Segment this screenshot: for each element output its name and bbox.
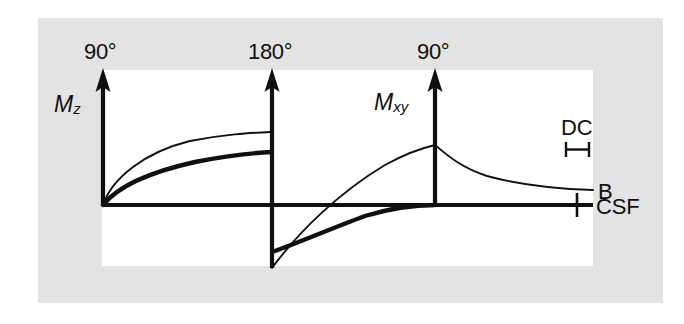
figure-container: 90° 180° 90° Mz Mxy DC B CSF — [0, 0, 684, 324]
curve-b-mz-recovery — [103, 152, 272, 205]
dc-contrast-bracket — [566, 142, 589, 157]
rf-pulse-arrow-90-first — [96, 68, 111, 205]
curve-csf-mxy-decay — [435, 145, 593, 190]
mxy-axis-label: Mxy — [374, 91, 408, 114]
mxy-axis-label-main: M — [374, 89, 393, 115]
rf-pulse-arrow-90-second — [428, 68, 443, 205]
mz-axis-label-main: M — [54, 91, 73, 117]
curve-label-csf: CSF — [596, 196, 639, 218]
curve-b-inversion-recovery — [275, 205, 435, 251]
rf-pulse-label-90-first: 90° — [84, 41, 116, 63]
mz-axis-label: Mz — [54, 93, 81, 116]
mz-axis-label-subscript: z — [73, 100, 81, 117]
dc-contrast-label: DC — [561, 117, 592, 139]
curve-csf-mz-recovery — [103, 132, 272, 205]
mxy-axis-label-subscript: xy — [393, 98, 408, 115]
rf-pulse-label-180: 180° — [248, 41, 292, 63]
rf-pulse-label-90-second: 90° — [417, 41, 449, 63]
rf-pulse-arrow-180 — [265, 68, 280, 268]
